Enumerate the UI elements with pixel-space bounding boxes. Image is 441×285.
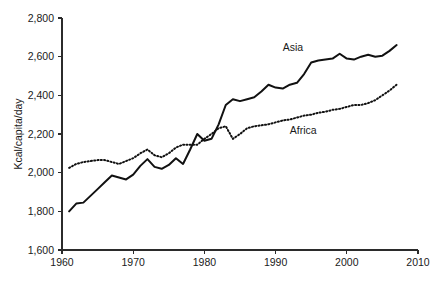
y-tick-label: 1,600 [28, 244, 54, 256]
chart-container: 1,6001,8002,0002,2002,4002,6002,80019601… [0, 0, 441, 285]
x-tick-label: 1990 [264, 256, 288, 268]
y-tick-label: 2,200 [28, 128, 54, 140]
chart-series [69, 45, 397, 211]
y-tick-label: 1,800 [28, 205, 54, 217]
chart-annotations: AsiaAfrica [283, 41, 317, 136]
y-tick-label: 2,600 [28, 50, 54, 62]
line-chart: 1,6001,8002,0002,2002,4002,6002,80019601… [0, 0, 441, 285]
x-tick-label: 1960 [50, 256, 74, 268]
y-tick-label: 2,400 [28, 89, 54, 101]
series-annotation-asia: Asia [283, 41, 304, 53]
series-line-asia [69, 45, 397, 211]
x-tick-label: 2010 [406, 256, 430, 268]
series-line-africa [69, 85, 397, 168]
y-tick-label: 2,800 [28, 12, 54, 24]
x-tick-label: 2000 [335, 256, 359, 268]
y-axis-title: Kcal/capita/day [12, 98, 24, 170]
x-tick-label: 1980 [193, 256, 217, 268]
series-annotation-africa: Africa [290, 124, 317, 136]
y-tick-label: 2,000 [28, 166, 54, 178]
x-tick-label: 1970 [122, 256, 146, 268]
chart-axes: 1,6001,8002,0002,2002,4002,6002,80019601… [12, 12, 430, 268]
